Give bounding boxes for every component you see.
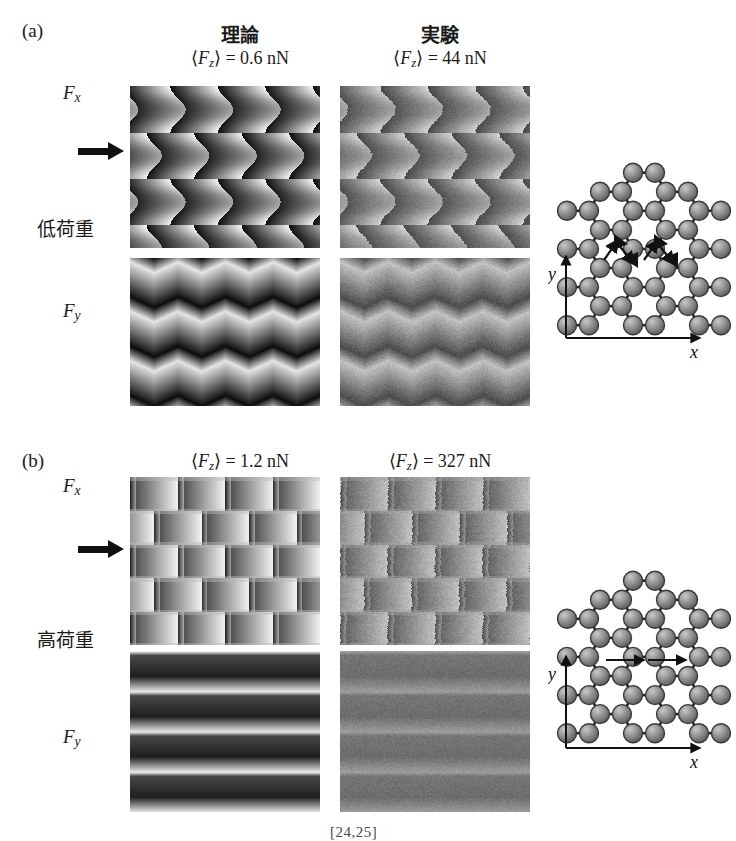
- panel-a-theory-heading: 理論: [150, 20, 330, 47]
- map-a-experiment-fx: [340, 86, 530, 248]
- panel-b-experiment-number: 327: [438, 451, 465, 471]
- panel-b-lattice-diagram: x y: [548, 568, 734, 780]
- panel-a-experiment-heading: 実験: [345, 20, 535, 47]
- panel-b-lattice-y-label: y: [548, 664, 556, 684]
- panel-a-row-label-fy: Fy: [63, 300, 81, 324]
- panel-a-row-label-fx: Fx: [63, 82, 81, 106]
- map-a-experiment-fy: [340, 258, 530, 406]
- panel-b-scan-direction-arrow-icon: [78, 540, 126, 560]
- map-a-theory-fy: [130, 258, 320, 406]
- map-a-theory-fx: [130, 86, 320, 248]
- map-b-theory-fx: [130, 477, 320, 645]
- panel-a-experiment-number: 44: [442, 48, 460, 68]
- panel-b-letter: (b): [22, 450, 44, 472]
- panel-a-experiment-value: ⟨Fz⟩ = 44 nN: [345, 47, 535, 71]
- reference-note: [24,25]: [330, 824, 377, 841]
- panel-a-scan-direction-arrow-icon: [78, 142, 126, 162]
- panel-b-load-label: 高荷重: [37, 625, 94, 652]
- panel-b-row-label-fx: Fx: [63, 475, 81, 499]
- panel-a-theory-value: ⟨Fz⟩ = 0.6 nN: [150, 47, 330, 71]
- panel-a-theory-number: 0.6: [240, 48, 263, 68]
- map-b-experiment-fy: [340, 651, 530, 812]
- panel-b-experiment-value: ⟨Fz⟩ = 327 nN: [345, 450, 535, 474]
- map-b-experiment-fx: [340, 477, 530, 645]
- panel-a-lattice-y-label: y: [548, 264, 556, 284]
- panel-a-lattice-x-label: x: [689, 342, 698, 362]
- panel-b-lattice-x-label: x: [689, 752, 698, 772]
- map-b-theory-fy: [130, 651, 320, 812]
- panel-b-theory-value: ⟨Fz⟩ = 1.2 nN: [150, 450, 330, 474]
- panel-b-theory-number: 1.2: [240, 451, 263, 471]
- panel-a-lattice-diagram: x y: [548, 160, 734, 370]
- panel-b-row-label-fy: Fy: [63, 726, 81, 750]
- panel-a-letter: (a): [22, 20, 43, 42]
- panel-a-load-label: 低荷重: [37, 214, 94, 241]
